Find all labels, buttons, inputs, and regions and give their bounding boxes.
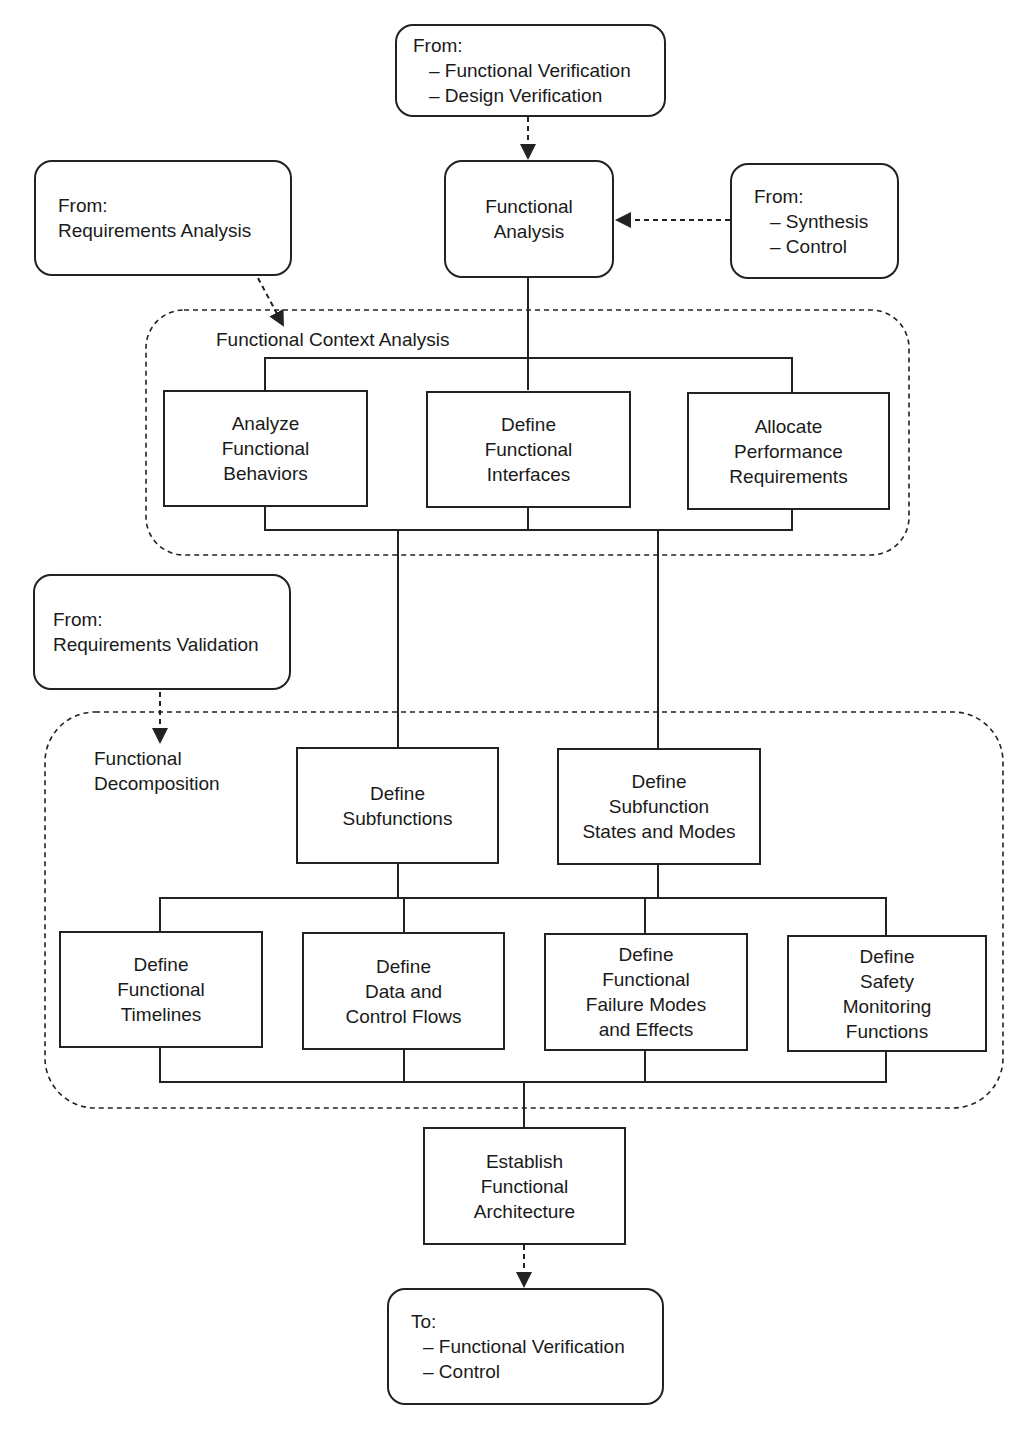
box-text: Define [632, 769, 687, 794]
establish-architecture-box: Establish Functional Architecture [423, 1127, 626, 1245]
source-item: Requirements Validation [53, 632, 259, 657]
output-heading: To: [411, 1309, 436, 1334]
define-safety-monitoring-box: Define Safety Monitoring Functions [787, 935, 987, 1052]
box-text: Subfunctions [343, 806, 453, 831]
source-heading: From: [413, 33, 463, 58]
box-text: Define [619, 942, 674, 967]
source-synthesis-box: From: – Synthesis – Control [730, 163, 899, 279]
box-text: Define [860, 944, 915, 969]
box-text: Functional [602, 967, 690, 992]
output-item: – Functional Verification [411, 1334, 625, 1359]
source-verification-box: From: – Functional Verification – Design… [395, 24, 666, 117]
define-subfunctions-box: Define Subfunctions [296, 747, 499, 864]
box-text: Monitoring [843, 994, 932, 1019]
box-text: Functional [117, 977, 205, 1002]
box-text: Functions [846, 1019, 928, 1044]
box-text: Performance [734, 439, 843, 464]
source-item: – Design Verification [413, 83, 602, 108]
box-text: Failure Modes [586, 992, 706, 1017]
define-timelines-box: Define Functional Timelines [59, 931, 263, 1048]
box-text: Functional [222, 436, 310, 461]
box-text: Architecture [474, 1199, 575, 1224]
box-text: Define [501, 412, 556, 437]
box-text: and Effects [599, 1017, 694, 1042]
source-item: – Control [754, 234, 847, 259]
box-text: Define [376, 954, 431, 979]
source-heading: From: [754, 184, 804, 209]
define-states-modes-box: Define Subfunction States and Modes [557, 748, 761, 865]
box-text: Establish [486, 1149, 563, 1174]
source-requirements-validation-box: From: Requirements Validation [33, 574, 291, 690]
box-text: Functional [485, 437, 573, 462]
title-line: Functional [94, 746, 220, 771]
box-text: Control Flows [345, 1004, 461, 1029]
define-failure-modes-box: Define Functional Failure Modes and Effe… [544, 933, 748, 1051]
functional-analysis-box: Functional Analysis [444, 160, 614, 278]
source-heading: From: [53, 607, 103, 632]
box-text: Functional [485, 194, 573, 219]
define-interfaces-box: Define Functional Interfaces [426, 391, 631, 508]
box-text: Behaviors [223, 461, 308, 486]
box-text: States and Modes [582, 819, 735, 844]
box-text: Timelines [121, 1002, 202, 1027]
box-text: Analyze [232, 411, 300, 436]
box-text: Functional [481, 1174, 569, 1199]
output-item: – Control [411, 1359, 500, 1384]
source-item: – Synthesis [754, 209, 868, 234]
source-item: – Functional Verification [413, 58, 631, 83]
source-item: Requirements Analysis [58, 218, 251, 243]
box-text: Define [370, 781, 425, 806]
box-text: Interfaces [487, 462, 570, 487]
box-text: Allocate [755, 414, 823, 439]
decomposition-group-title: Functional Decomposition [94, 746, 220, 796]
box-text: Requirements [729, 464, 847, 489]
box-text: Analysis [494, 219, 565, 244]
context-group-title: Functional Context Analysis [216, 327, 449, 352]
analyze-behaviors-box: Analyze Functional Behaviors [163, 390, 368, 507]
box-text: Define [134, 952, 189, 977]
output-destination-box: To: – Functional Verification – Control [387, 1288, 664, 1405]
box-text: Data and [365, 979, 442, 1004]
define-data-control-flows-box: Define Data and Control Flows [302, 932, 505, 1050]
allocate-performance-box: Allocate Performance Requirements [687, 392, 890, 510]
box-text: Subfunction [609, 794, 709, 819]
title-line: Decomposition [94, 771, 220, 796]
box-text: Safety [860, 969, 914, 994]
source-requirements-analysis-box: From: Requirements Analysis [34, 160, 292, 276]
source-heading: From: [58, 193, 108, 218]
